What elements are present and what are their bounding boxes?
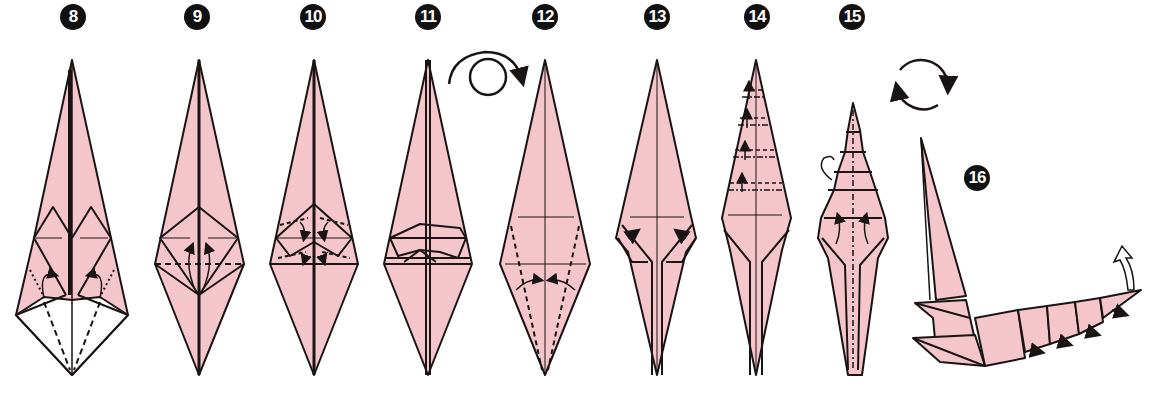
step-9-model — [155, 60, 244, 375]
step-12-model — [500, 60, 590, 375]
step-8-model — [16, 60, 128, 375]
rotate-icon — [897, 60, 948, 109]
lift-tail-arrow-icon — [1114, 246, 1134, 290]
step-11-model — [384, 60, 472, 375]
origami-diagram: 8 9 10 11 12 13 14 15 16 — [0, 0, 1154, 395]
step-15-model — [818, 103, 888, 375]
turn-over-icon — [449, 52, 522, 95]
step-10-model — [270, 60, 358, 375]
step-16-model — [913, 138, 1141, 366]
step-14-model — [722, 60, 791, 375]
diagram-drawings — [0, 0, 1154, 395]
step-13-model — [616, 60, 696, 375]
